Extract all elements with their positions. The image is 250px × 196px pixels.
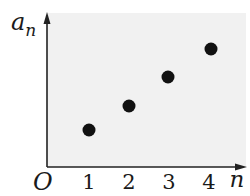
- x-tick-4: 4: [202, 170, 215, 194]
- data-point-2: [123, 100, 136, 113]
- scatter-plot: an O 1 2 3 4 n: [0, 0, 250, 196]
- data-point-4: [205, 43, 218, 56]
- y-axis-label: an: [11, 8, 36, 40]
- x-axis-label: n: [230, 166, 245, 192]
- plot-panel: [47, 13, 246, 167]
- x-tick-1: 1: [82, 170, 95, 194]
- data-point-3: [162, 71, 175, 84]
- data-point-1: [83, 124, 96, 137]
- origin-label: O: [33, 168, 53, 196]
- x-tick-3: 3: [162, 170, 175, 194]
- x-tick-2: 2: [122, 170, 135, 194]
